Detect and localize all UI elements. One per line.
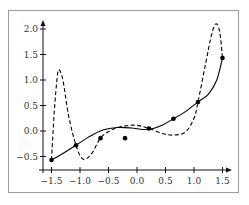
y-tick-label: −0.5 xyxy=(16,152,38,162)
data-point xyxy=(196,100,201,105)
curves xyxy=(52,24,223,160)
data-point xyxy=(123,136,128,141)
data-point xyxy=(49,158,54,163)
y-axis-arrow-icon xyxy=(41,20,46,26)
x-tick-label: −0.5 xyxy=(98,176,120,186)
data-points xyxy=(49,56,225,163)
x-tick-label: 0.0 xyxy=(130,176,145,186)
x-tick-label: 1.5 xyxy=(215,176,230,186)
y-tick-label: 1.0 xyxy=(24,75,39,85)
x-tick-label: 0.5 xyxy=(158,176,173,186)
x-axis-arrow-icon xyxy=(226,168,232,173)
y-tick-label: 0.0 xyxy=(24,126,39,136)
data-point xyxy=(220,56,225,61)
data-point xyxy=(171,116,176,121)
data-point xyxy=(147,126,152,131)
x-tick-label: −1.5 xyxy=(41,176,63,186)
y-tick-label: 0.5 xyxy=(24,101,39,111)
dashed-polynomial-curve xyxy=(52,24,223,160)
data-point xyxy=(98,136,103,141)
data-point xyxy=(74,143,79,148)
x-tick-label: 1.0 xyxy=(187,176,202,186)
x-tick-label: −1.0 xyxy=(69,176,91,186)
plot-area: −1.5−1.0−0.50.00.51.01.5−0.50.00.51.01.5… xyxy=(0,0,249,205)
y-tick-label: 1.5 xyxy=(24,50,39,60)
y-tick-label: 2.0 xyxy=(24,24,39,34)
